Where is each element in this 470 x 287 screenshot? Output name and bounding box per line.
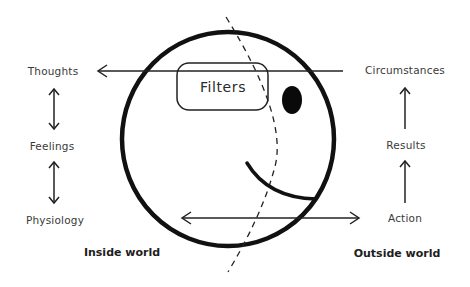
- dashed-divider-line: [226, 17, 277, 272]
- feelings-label: Feelings: [30, 141, 75, 152]
- head-circle: [122, 32, 334, 246]
- action-to-results-arrow: [400, 161, 410, 203]
- smile-curve: [247, 163, 316, 199]
- eye: [282, 86, 302, 114]
- filters-label: Filters: [200, 80, 246, 94]
- thoughts-label: Thoughts: [28, 66, 79, 77]
- outside-world-title: Outside world: [354, 248, 441, 259]
- results-label: Results: [386, 140, 425, 151]
- action-label: Action: [388, 213, 422, 224]
- inside-world-title: Inside world: [84, 247, 160, 258]
- diagram-canvas: Filters Thoughts Feelings Physiology Cir…: [0, 0, 470, 287]
- thoughts-feelings-double-arrow: [49, 89, 59, 129]
- feelings-physiology-double-arrow: [49, 162, 59, 203]
- physiology-label: Physiology: [26, 215, 84, 226]
- circumstances-label: Circumstances: [365, 65, 445, 76]
- results-to-circumstances-arrow: [400, 88, 410, 129]
- physiology-action-double-arrow: [182, 212, 359, 224]
